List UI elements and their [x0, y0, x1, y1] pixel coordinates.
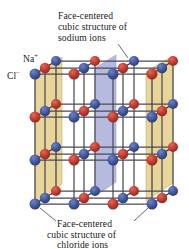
- sodium-ion: [79, 106, 89, 116]
- top-caption-line-3: sodium ions: [58, 32, 106, 43]
- chloride-ion: [168, 99, 178, 109]
- chloride-ion: [90, 186, 100, 196]
- top-caption-leader-line: [118, 44, 128, 58]
- sodium-ion: [147, 69, 158, 80]
- sodium-ion: [40, 149, 50, 159]
- lattice-illustration: Face-centered cubic structure of sodium …: [0, 0, 189, 249]
- sodium-ion: [40, 63, 50, 73]
- sodium-ion: [90, 142, 100, 152]
- top-caption-line-2: cubic structure of: [58, 21, 128, 32]
- sodium-ion: [118, 149, 128, 159]
- chloride-ion: [79, 149, 89, 159]
- bottom-caption: Face-centered cubic structure of chlorid…: [40, 208, 148, 249]
- chloride-ion: [40, 106, 50, 116]
- chloride-ion: [118, 193, 128, 203]
- chloride-ion: [147, 199, 158, 210]
- chloride-ion: [69, 112, 80, 123]
- sodium-ion: [30, 112, 41, 123]
- left-inner-tan-face-panel: [56, 57, 62, 188]
- bottom-caption-leader-left: [40, 208, 56, 221]
- chloride-ion: [118, 106, 128, 116]
- sodium-ion: [90, 56, 100, 66]
- chloride-ion: [30, 199, 41, 210]
- sodium-ion: [79, 193, 89, 203]
- sodium-ion: [168, 56, 178, 66]
- chloride-ion: [79, 63, 89, 73]
- bottom-caption-line-1: Face-centered: [57, 218, 112, 229]
- sodium-ion: [69, 155, 80, 166]
- chloride-ion: [51, 142, 61, 152]
- sodium-ion: [118, 63, 128, 73]
- chloride-ion: [129, 142, 139, 152]
- sodium-ion: [129, 99, 139, 109]
- chloride-ion: [108, 69, 119, 80]
- sodium-ion: [51, 186, 61, 196]
- chloride-ion: [69, 199, 80, 210]
- chloride-ion: [90, 99, 100, 109]
- chloride-ion-label: Cl−: [7, 69, 20, 81]
- top-caption-line-1: Face-centered: [58, 10, 113, 21]
- sodium-ion: [157, 193, 167, 203]
- chloride-ion: [147, 112, 158, 123]
- top-caption: Face-centered cubic structure of sodium …: [58, 10, 128, 58]
- chloride-ion: [157, 149, 167, 159]
- sodium-ion: [129, 186, 139, 196]
- nacl-lattice-figure: Face-centered cubic structure of sodium …: [0, 0, 189, 249]
- chloride-ion: [30, 155, 41, 166]
- chloride-ion: [40, 193, 50, 203]
- right-inner-tan-face-panel: [146, 68, 152, 201]
- chloride-ion: [51, 56, 61, 66]
- bottom-caption-line-3: chloride ions: [57, 239, 108, 249]
- chloride-ion: [129, 56, 139, 66]
- sodium-ion: [168, 142, 178, 152]
- sodium-ion: [157, 106, 167, 116]
- chloride-ion: [108, 155, 119, 166]
- sodium-ion-label: Na+: [23, 52, 38, 64]
- bottom-caption-leader-right: [134, 208, 148, 221]
- sodium-ion: [51, 99, 61, 109]
- chloride-ion: [168, 186, 178, 196]
- chloride-ion: [30, 69, 41, 80]
- sodium-ion: [108, 199, 119, 210]
- chloride-ion: [157, 63, 167, 73]
- sodium-ion: [108, 112, 119, 123]
- sodium-ion: [69, 69, 80, 80]
- sodium-ion: [147, 155, 158, 166]
